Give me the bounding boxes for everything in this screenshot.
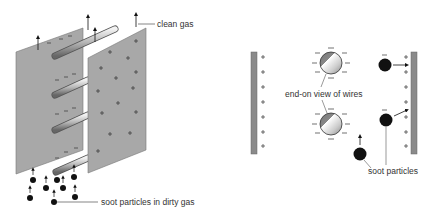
soot-particles-dirty xyxy=(27,174,78,205)
particle-leaders xyxy=(364,127,386,168)
clean-gas-label: clean gas xyxy=(157,19,193,29)
left-collector-plate xyxy=(251,52,257,154)
right-collector-plate xyxy=(411,52,417,154)
precipitator-diagram xyxy=(0,0,430,215)
wires-label: end-on view of wires xyxy=(285,89,362,99)
dirty-gas-arrows xyxy=(30,166,75,197)
soot-dirty-gas-label: soot particles in dirty gas xyxy=(101,197,195,207)
end-on-view xyxy=(251,48,417,168)
perspective-view xyxy=(16,14,155,205)
soot-particles-end-on xyxy=(354,59,393,161)
wire-top xyxy=(320,52,342,74)
soot-particles-label: soot particles xyxy=(368,166,418,176)
particle-arrows xyxy=(360,65,407,145)
wire-bottom xyxy=(320,113,342,135)
